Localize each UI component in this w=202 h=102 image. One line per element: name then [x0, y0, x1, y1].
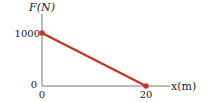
data-point-1 — [143, 83, 149, 89]
y-tick-label-1000: 1000 — [15, 28, 40, 39]
x-tick-label-20: 20 — [140, 89, 153, 100]
series-line-F — [42, 33, 146, 86]
y-axis-label: F(N) — [28, 1, 55, 14]
chart: F(N) x(m) 0 1000 0 20 — [0, 0, 202, 102]
x-tick-label-0: 0 — [39, 89, 45, 100]
data-point-0 — [39, 30, 45, 36]
x-axis-label: x(m) — [171, 80, 196, 93]
y-tick-label-0: 0 — [31, 79, 37, 90]
